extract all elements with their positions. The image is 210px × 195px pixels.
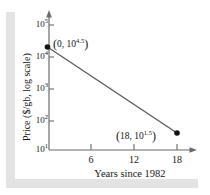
- annotation-point-left: (0, 104.5): [53, 38, 88, 50]
- x-axis-ticks: [91, 144, 177, 150]
- annotation-right-text: 18, 10: [120, 131, 144, 141]
- y-axis: [46, 10, 52, 150]
- x-axis-title: Years since 1982: [60, 169, 200, 180]
- annotation-point-right: (18, 101.5): [116, 130, 156, 142]
- annotation-left-text: 0, 10: [57, 39, 76, 49]
- x-tick-label-12: 12: [124, 155, 144, 165]
- data-point-marker-right: [174, 130, 180, 136]
- y-axis-title: Price ($/gb, log scale): [22, 53, 32, 141]
- x-tick-label-6: 6: [81, 155, 101, 165]
- y-tick-label-1e5: 105: [26, 20, 48, 29]
- annotation-right-exponent: 1.5: [144, 129, 152, 136]
- x-tick-label-18: 18: [167, 155, 187, 165]
- annotation-left-exponent: 4.5: [76, 37, 84, 44]
- y-tick-label-1e1: 101: [26, 145, 48, 154]
- x-axis: [49, 147, 197, 153]
- chart-figure: 105 104 103 102 101 6 12 18 Years since …: [0, 0, 210, 195]
- annotation-left-close-paren: ): [84, 37, 88, 51]
- data-line: [48, 47, 178, 133]
- annotation-right-close-paren: ): [152, 129, 156, 143]
